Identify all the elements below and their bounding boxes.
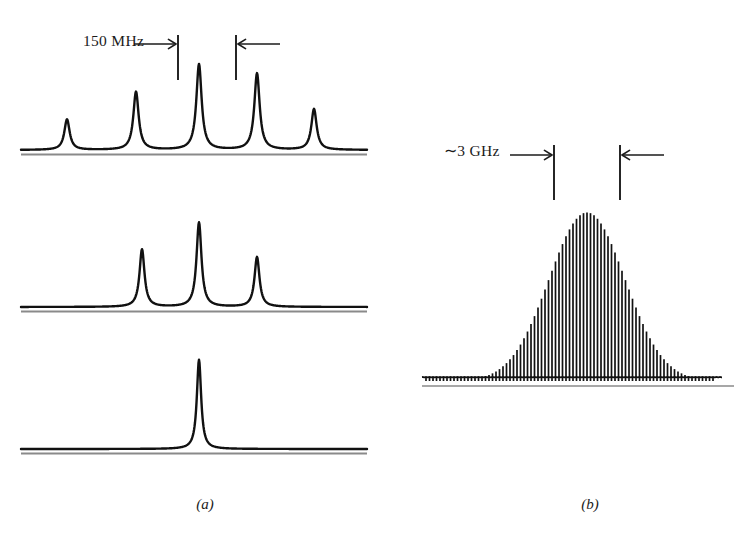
panel-a-trace-2 — [21, 205, 367, 315]
figure-root: 150 MHz (a) ∼3 GHz (b) — [0, 0, 739, 543]
panel-b-comb-trace — [422, 185, 722, 385]
panel-a-trace-3 — [21, 347, 367, 457]
panel-b-scale-annotation — [380, 0, 739, 215]
panel-b: ∼3 GHz (b) — [380, 0, 739, 543]
panel-a-caption: (a) — [185, 496, 225, 513]
panel-a: 150 MHz (a) — [0, 0, 380, 543]
panel-b-caption: (b) — [570, 496, 610, 513]
panel-a-trace-1 — [21, 48, 367, 158]
